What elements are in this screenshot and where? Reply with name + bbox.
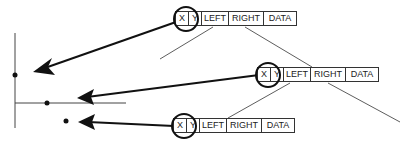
edge-node2-left [228, 83, 290, 118]
xy-highlight-ring-1 [173, 6, 199, 32]
xy-highlight-ring-2 [255, 62, 281, 88]
field-data: DATA [346, 68, 378, 81]
point-2 [45, 101, 50, 106]
point-3 [64, 119, 69, 124]
edge-node2-right [328, 83, 400, 122]
field-left: LEFT [200, 119, 227, 132]
field-right: RIGHT [229, 12, 264, 25]
field-data: DATA [264, 12, 296, 25]
arrow-node3-to-point3 [88, 122, 174, 126]
field-right: RIGHT [227, 119, 262, 132]
field-left: LEFT [284, 68, 311, 81]
xy-highlight-ring-3 [171, 113, 197, 139]
arrow-node1-to-point1 [42, 22, 176, 69]
point-1 [13, 73, 18, 78]
arrow-node2-to-point2 [87, 75, 259, 97]
edge-node1-right [245, 27, 312, 67]
field-data: DATA [262, 119, 294, 132]
field-left: LEFT [202, 12, 229, 25]
field-right: RIGHT [311, 68, 346, 81]
